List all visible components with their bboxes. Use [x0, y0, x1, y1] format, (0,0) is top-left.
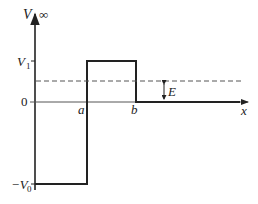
a-label: a	[78, 102, 85, 117]
potential-curve	[35, 61, 240, 184]
zero-label: 0	[21, 94, 28, 109]
x-axis-label: x	[240, 103, 247, 118]
infinity-label: ∞	[39, 7, 48, 22]
neg-v0-sub: 0	[27, 184, 32, 194]
v1-sub: 1	[26, 61, 31, 71]
potential-diagram: V ∞ V 1 0 −V 0 a b E x	[0, 0, 258, 204]
b-label: b	[131, 102, 138, 117]
y-axis-label: V	[23, 7, 33, 22]
energy-label: E	[167, 84, 176, 99]
